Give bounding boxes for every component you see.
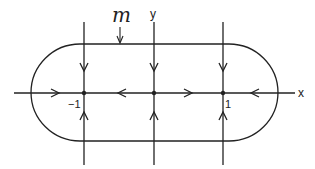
equilibrium-dot-neg-one <box>82 91 86 95</box>
equilibrium-dot-pos-one <box>221 91 225 95</box>
phase-portrait-diagram: m y x −1 1 <box>0 0 315 169</box>
tick-label-pos-one: 1 <box>225 98 231 110</box>
y-axis-label: y <box>150 7 156 21</box>
x-axis-label: x <box>298 86 304 100</box>
curve-label-m: m <box>112 3 131 27</box>
equilibrium-dot-origin <box>152 91 156 95</box>
tick-label-neg-one: −1 <box>68 98 81 110</box>
